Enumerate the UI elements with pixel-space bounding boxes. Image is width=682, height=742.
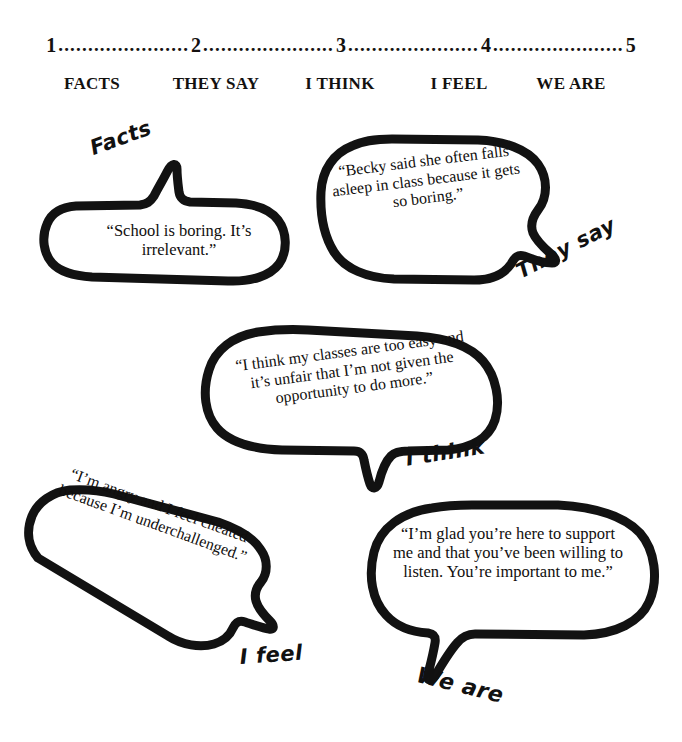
speech-bubble-facts-text: “School is boring. It’s irrelevant.” [74,221,284,259]
scale-number-4: 4 [481,34,491,56]
scale-dots-4: ...................... [491,34,626,55]
scale-label-we-are: WE ARE [536,74,605,94]
scale-dots-1: ...................... [56,34,191,55]
scale-label-i-feel: I FEEL [430,74,487,94]
speech-bubble-facts-tag: Facts [87,116,155,160]
scale-number-5: 5 [626,34,636,56]
speech-bubble-i-feel: “I’m angry and I feel cheated because I’… [18,478,298,663]
scale-number-3: 3 [336,34,346,56]
scale-label-they-say: THEY SAY [173,74,260,94]
speech-bubble-i-feel-tag: I feel [239,641,303,669]
speech-bubble-we-are-text: “I’m glad you’re here to support me and … [392,524,624,581]
scale-ruler: 1......................2................… [0,34,682,57]
scale-number-1: 1 [46,34,56,56]
scale-label-i-think: I THINK [305,74,374,94]
diagram-canvas: 1......................2................… [0,0,682,742]
speech-bubble-facts: “School is boring. It’s irrelevant.” [30,158,300,308]
scale-labels-row: FACTS THEY SAY I THINK I FEEL WE ARE [0,74,682,96]
scale-label-facts: FACTS [64,74,120,94]
scale-dots-3: ...................... [346,34,481,55]
speech-bubble-we-are: “I’m glad you’re here to support me and … [362,498,667,683]
scale-dots-2: ...................... [201,34,336,55]
scale-number-2: 2 [191,34,201,56]
speech-bubble-i-think: “I think my classes are too easy and it’… [198,318,508,488]
